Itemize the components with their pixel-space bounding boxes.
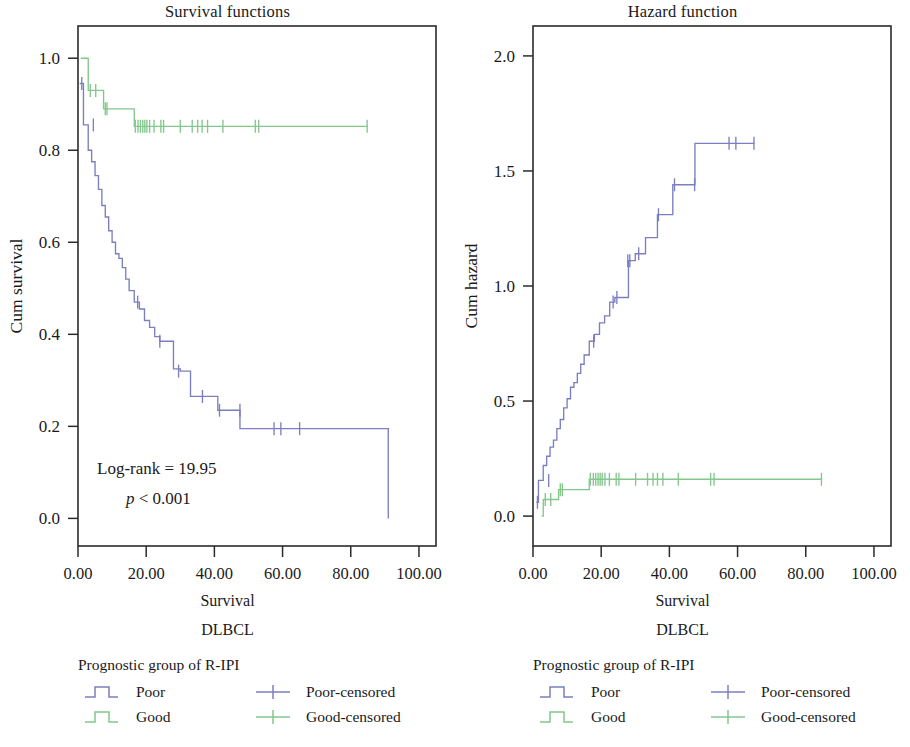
legend-label-curve: Poor bbox=[136, 683, 165, 701]
legend-label-censored: Poor-censored bbox=[306, 683, 395, 701]
y-axis-label: Cum survival bbox=[6, 238, 26, 333]
step-line-icon bbox=[84, 683, 126, 701]
panel-hazard-function: Hazard function 0.0020.0040.0060.0080.00… bbox=[455, 0, 910, 747]
x-tick-label: 20.00 bbox=[128, 564, 165, 583]
series-line-good bbox=[542, 479, 823, 516]
legend-entry-curve: Good bbox=[539, 708, 709, 726]
censor-plus-icon bbox=[254, 683, 296, 701]
series-line-poor bbox=[80, 84, 389, 519]
legend-title-hazard: Prognostic group of R-IPI bbox=[533, 656, 910, 674]
legend-row: GoodGood-censored bbox=[539, 704, 910, 729]
figure-container: Survival functions 0.0020.0040.0060.0080… bbox=[0, 0, 910, 747]
x-axis-sublabel-survival: DLBCL bbox=[0, 621, 455, 639]
plot-frame bbox=[533, 26, 891, 546]
x-tick-label: 80.00 bbox=[787, 564, 824, 583]
legend-rows-survival: PoorPoor-censoredGoodGood-censored bbox=[84, 679, 455, 729]
y-tick-label: 0.5 bbox=[494, 392, 515, 411]
legend-label-censored: Poor-censored bbox=[761, 683, 850, 701]
x-tick-label: 100.00 bbox=[851, 564, 896, 583]
x-tick-label: 20.00 bbox=[583, 564, 620, 583]
legend-label-censored: Good-censored bbox=[306, 708, 401, 726]
step-line-icon bbox=[84, 708, 126, 726]
legend-hazard: Prognostic group of R-IPI PoorPoor-censo… bbox=[455, 656, 910, 729]
step-line-icon bbox=[539, 683, 581, 701]
y-tick-label: 0.0 bbox=[39, 509, 60, 528]
hazard-plot: 0.0020.0040.0060.0080.00100.000.00.51.01… bbox=[455, 0, 910, 600]
x-tick-label: 80.00 bbox=[332, 564, 369, 583]
y-tick-label: 1.0 bbox=[494, 277, 515, 296]
x-tick-label: 60.00 bbox=[264, 564, 301, 583]
legend-label-censored: Good-censored bbox=[761, 708, 856, 726]
censor-plus-icon bbox=[254, 708, 296, 726]
censor-plus-icon bbox=[709, 683, 751, 701]
annotation-logrank: Log-rank = 19.95 bbox=[97, 459, 217, 478]
legend-row: PoorPoor-censored bbox=[84, 679, 455, 704]
x-tick-label: 0.00 bbox=[64, 564, 93, 583]
y-tick-label: 1.0 bbox=[39, 49, 60, 68]
y-tick-label: 0.0 bbox=[494, 507, 515, 526]
y-axis-label: Cum hazard bbox=[461, 243, 481, 328]
legend-entry-censored: Good-censored bbox=[254, 708, 401, 726]
y-tick-label: 0.6 bbox=[39, 233, 60, 252]
legend-title-survival: Prognostic group of R-IPI bbox=[78, 656, 455, 674]
y-tick-label: 1.5 bbox=[494, 162, 515, 181]
series-line-poor bbox=[536, 143, 754, 502]
x-axis-sublabel-hazard: DLBCL bbox=[455, 621, 910, 639]
censor-plus-icon bbox=[709, 708, 751, 726]
legend-entry-curve: Good bbox=[84, 708, 254, 726]
legend-survival: Prognostic group of R-IPI PoorPoor-censo… bbox=[0, 656, 455, 729]
x-tick-label: 40.00 bbox=[651, 564, 688, 583]
x-axis-label-hazard: Survival bbox=[455, 592, 910, 610]
legend-entry-curve: Poor bbox=[84, 683, 254, 701]
legend-rows-hazard: PoorPoor-censoredGoodGood-censored bbox=[539, 679, 910, 729]
x-tick-label: 40.00 bbox=[196, 564, 233, 583]
legend-row: GoodGood-censored bbox=[84, 704, 455, 729]
legend-entry-curve: Poor bbox=[539, 683, 709, 701]
legend-entry-censored: Poor-censored bbox=[709, 683, 850, 701]
step-line-icon bbox=[539, 708, 581, 726]
legend-entry-censored: Good-censored bbox=[709, 708, 856, 726]
x-tick-label: 0.00 bbox=[519, 564, 548, 583]
legend-label-curve: Poor bbox=[591, 683, 620, 701]
x-axis-label-survival: Survival bbox=[0, 592, 455, 610]
x-tick-label: 100.00 bbox=[396, 564, 441, 583]
legend-label-curve: Good bbox=[136, 708, 170, 726]
series-line-good bbox=[81, 58, 368, 126]
panel-survival-functions: Survival functions 0.0020.0040.0060.0080… bbox=[0, 0, 455, 747]
legend-label-curve: Good bbox=[591, 708, 625, 726]
y-tick-label: 0.4 bbox=[39, 325, 61, 344]
legend-row: PoorPoor-censored bbox=[539, 679, 910, 704]
y-tick-label: 0.8 bbox=[39, 141, 60, 160]
legend-entry-censored: Poor-censored bbox=[254, 683, 395, 701]
annotation-pvalue: p < 0.001 bbox=[125, 489, 191, 508]
y-tick-label: 0.2 bbox=[39, 417, 60, 436]
x-tick-label: 60.00 bbox=[719, 564, 756, 583]
survival-plot: 0.0020.0040.0060.0080.00100.000.00.20.40… bbox=[0, 0, 455, 600]
y-tick-label: 2.0 bbox=[494, 47, 515, 66]
